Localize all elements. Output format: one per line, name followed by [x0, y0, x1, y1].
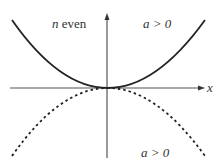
diagram-canvas	[0, 0, 219, 168]
label-bottom-right: a > 0	[141, 145, 169, 161]
y-axis	[105, 13, 110, 158]
label-top-right: a > 0	[143, 16, 171, 32]
dashed-parabola	[12, 88, 205, 156]
label-x-axis: x	[207, 80, 213, 96]
solid-parabola	[12, 20, 205, 88]
label-n-even: n even	[52, 16, 86, 32]
